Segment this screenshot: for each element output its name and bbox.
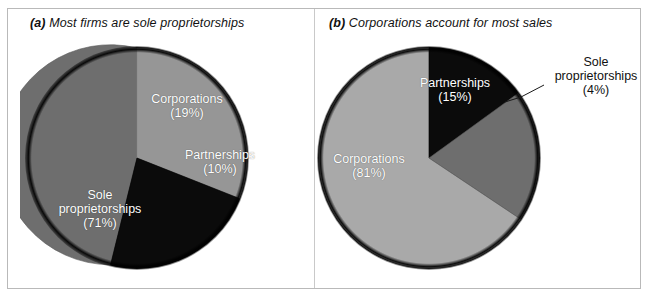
pie-chart-figure: (a) Most firms are sole proprietorships … xyxy=(0,0,650,304)
panel-b-title: (b) Corporations account for most sales xyxy=(329,16,552,30)
pie-b-label-sole-line1: Sole xyxy=(548,55,644,69)
pie-b-label-sole-pct: (4%) xyxy=(548,83,644,97)
pie-b-label-corporations-pct: (81%) xyxy=(323,166,415,180)
pie-b-label-partnerships-name: Partnerships xyxy=(405,76,505,90)
panel-b-title-text: Corporations account for most sales xyxy=(349,16,553,30)
pie-b-label-sole-line2: proprietorships xyxy=(548,69,644,83)
pie-a-label-sole-line1: Sole xyxy=(46,188,154,202)
pie-a-label-sole-line2: proprietorships xyxy=(46,202,154,216)
pie-a-label-partnerships: Partnerships (10%) xyxy=(168,148,272,176)
pie-a-label-corporations-pct: (19%) xyxy=(139,106,235,120)
pie-a-label-corporations: Corporations (19%) xyxy=(139,92,235,120)
pie-a-label-partnerships-name: Partnerships xyxy=(168,148,272,162)
pie-a-label-sole-proprietorships: Sole proprietorships (71%) xyxy=(46,188,154,230)
panel-a-title-text: Most firms are sole proprietorships xyxy=(49,16,244,30)
panel-b-tag: (b) xyxy=(329,16,349,30)
pie-b-label-corporations: Corporations (81%) xyxy=(323,152,415,180)
pie-a-label-corporations-name: Corporations xyxy=(139,92,235,106)
pie-b-label-corporations-name: Corporations xyxy=(323,152,415,166)
pie-b-label-partnerships-pct: (15%) xyxy=(405,90,505,104)
pie-a-label-partnerships-pct: (10%) xyxy=(168,162,272,176)
pie-a-label-sole-pct: (71%) xyxy=(46,216,154,230)
pie-b-label-sole-proprietorships: Sole proprietorships (4%) xyxy=(548,55,644,97)
panel-a-tag: (a) xyxy=(30,16,49,30)
panel-a-title: (a) Most firms are sole proprietorships xyxy=(30,16,244,30)
pie-b-label-partnerships: Partnerships (15%) xyxy=(405,76,505,104)
